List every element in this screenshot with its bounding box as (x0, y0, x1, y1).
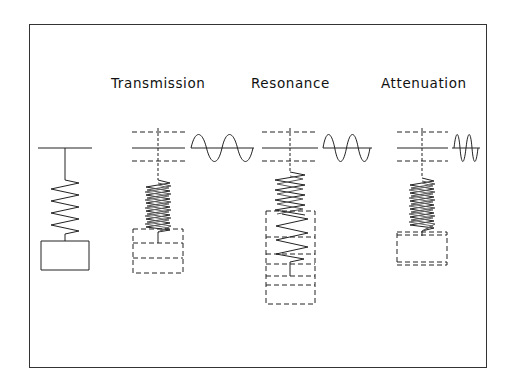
diagram-canvas (0, 0, 515, 390)
mass-block-dashed (266, 211, 315, 304)
mass-block-dashed (397, 232, 447, 265)
attenuation-panel (397, 128, 480, 265)
mass-block (41, 241, 89, 270)
spring-icon (409, 178, 435, 231)
spring-icon (51, 180, 79, 234)
resonance-panel (262, 128, 372, 304)
transmission-panel (132, 128, 254, 273)
spring-icon (275, 172, 308, 262)
spring-icon (145, 180, 171, 232)
static-spring-mass (38, 148, 92, 270)
